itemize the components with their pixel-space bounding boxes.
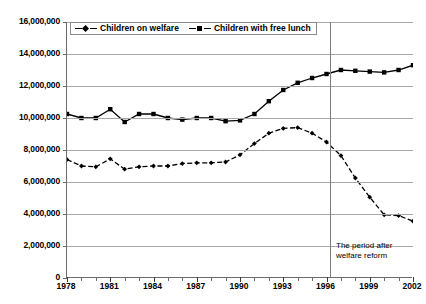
gridline (67, 150, 413, 151)
x-axis-tick-minor (81, 277, 82, 281)
data-point-marker (411, 63, 413, 67)
chart-legend: Children on welfare Children with free l… (70, 22, 317, 35)
x-axis-tick-label: 1987 (186, 282, 205, 291)
data-point-marker (209, 160, 214, 165)
x-axis-tick-label: 1984 (143, 282, 162, 291)
legend-label-children-with-free-lunch: Children with free lunch (214, 24, 311, 33)
x-axis-tick-label: 1999 (359, 282, 378, 291)
x-axis-tick-minor (355, 277, 356, 281)
y-axis-tick-label: 2,000,000 (0, 241, 60, 250)
plot-area (66, 22, 412, 278)
data-point-marker (108, 107, 112, 111)
y-axis-tick-label: 0 (0, 273, 60, 282)
data-point-marker (79, 164, 84, 169)
y-axis-tick-label: 8,000,000 (0, 145, 60, 154)
data-point-marker (252, 112, 256, 116)
x-axis-tick-minor (312, 277, 313, 281)
y-axis-tick-label: 4,000,000 (0, 209, 60, 218)
x-axis-tick-label: 1990 (230, 282, 249, 291)
data-point-marker (223, 160, 228, 165)
data-point-marker (93, 164, 98, 169)
annotation-line-2: welfare reform (336, 251, 418, 261)
data-point-marker (67, 112, 69, 116)
series-line (67, 128, 413, 222)
data-point-marker (411, 219, 413, 224)
legend-label-children-on-welfare: Children on welfare (100, 24, 179, 33)
y-axis-tick (63, 22, 67, 23)
y-axis-tick-label: 12,000,000 (0, 81, 60, 90)
legend-item-children-with-free-lunch: Children with free lunch (189, 24, 311, 33)
y-axis-tick (63, 54, 67, 55)
data-point-marker (281, 88, 285, 92)
data-point-marker (353, 69, 357, 73)
data-point-marker (295, 125, 300, 130)
y-axis-tick (63, 246, 67, 247)
gridline (67, 182, 413, 183)
data-point-marker (281, 126, 286, 131)
gridline (67, 214, 413, 215)
square-marker-icon (189, 24, 211, 33)
y-axis-tick-label: 14,000,000 (0, 49, 60, 58)
y-axis-tick-label: 16,000,000 (0, 17, 60, 26)
x-axis-tick-label: 1993 (273, 282, 292, 291)
y-axis-tick-label: 10,000,000 (0, 113, 60, 122)
data-point-marker (324, 72, 328, 76)
data-point-marker (151, 164, 156, 169)
x-axis-tick-minor (254, 277, 255, 281)
x-axis-tick-minor (298, 277, 299, 281)
data-point-marker (122, 120, 126, 124)
x-axis-tick-minor (168, 277, 169, 281)
data-point-marker (396, 68, 400, 72)
welfare-reform-annotation: The period after welfare reform (336, 241, 418, 261)
y-axis-tick (63, 182, 67, 183)
data-point-marker (267, 99, 271, 103)
x-axis-tick-minor (399, 277, 400, 281)
x-axis-tick-minor (139, 277, 140, 281)
x-axis-tick-minor (269, 277, 270, 281)
data-point-marker (194, 160, 199, 165)
gridline (67, 54, 413, 55)
data-point-marker (166, 164, 171, 169)
data-point-marker (180, 161, 185, 166)
legend-item-children-on-welfare: Children on welfare (75, 24, 179, 33)
data-point-marker (339, 68, 343, 72)
y-axis-tick (63, 86, 67, 87)
x-axis-tick-label: 2002 (403, 282, 422, 291)
y-axis-tick (63, 150, 67, 151)
gridline (67, 118, 413, 119)
x-axis-tick-label: 1996 (316, 282, 335, 291)
x-axis-tick-minor (226, 277, 227, 281)
x-axis-tick-minor (211, 277, 212, 281)
data-point-marker (223, 119, 227, 123)
x-axis-tick-label: 1981 (100, 282, 119, 291)
data-point-marker (67, 157, 69, 162)
data-point-marker (137, 112, 141, 116)
data-point-marker (151, 112, 155, 116)
x-axis-tick-label: 1978 (57, 282, 76, 291)
x-axis-tick-minor (341, 277, 342, 281)
data-point-marker (137, 164, 142, 169)
x-axis-tick-minor (96, 277, 97, 281)
data-point-marker (310, 76, 314, 80)
y-axis-tick (63, 118, 67, 119)
gridline (67, 86, 413, 87)
x-axis-tick-minor (384, 277, 385, 281)
series-line (67, 65, 413, 122)
x-axis-tick-minor (182, 277, 183, 281)
y-axis-tick-label: 6,000,000 (0, 177, 60, 186)
y-axis-tick (63, 214, 67, 215)
x-axis-tick-minor (125, 277, 126, 281)
line-chart: 02,000,0004,000,0006,000,0008,000,00010,… (0, 0, 426, 304)
welfare-reform-reference-line (330, 22, 331, 278)
data-point-marker (266, 131, 271, 136)
annotation-line-1: The period after (336, 241, 418, 251)
data-point-marker (295, 81, 299, 85)
data-point-marker (382, 70, 386, 74)
data-point-marker (368, 69, 372, 73)
diamond-marker-icon (75, 24, 97, 33)
